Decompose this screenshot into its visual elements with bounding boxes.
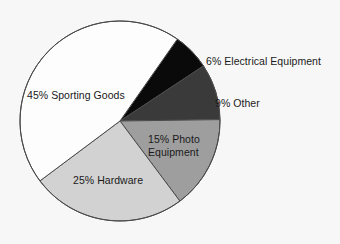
pie-chart-canvas [0,0,340,244]
pie-label-photo-equipment: 15% PhotoEquipment [148,133,200,158]
pie-label-other: 9% Other [215,97,260,110]
pie-label-hardware: 25% Hardware [73,174,143,187]
pie-label-sporting-goods: 45% Sporting Goods [27,89,125,102]
pie-chart-figure: 6% Electrical Equipment 9% Other 15% Pho… [0,0,340,244]
pie-label-photo-equipment-line2: Equipment [148,146,199,158]
pie-label-photo-equipment-line1: 15% Photo [148,133,200,145]
pie-slices-group [20,21,220,221]
pie-label-electrical-equipment: 6% Electrical Equipment [206,55,321,68]
